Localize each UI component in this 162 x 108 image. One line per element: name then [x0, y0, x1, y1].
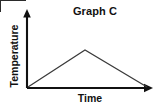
y-axis-label: Temperature [7, 20, 21, 92]
x-axis-arrowhead [144, 84, 153, 92]
x-axis-label: Time [45, 92, 135, 104]
page-title: Graph C [58, 5, 132, 18]
graph-c-figure: Graph C Temperature Time [0, 0, 162, 108]
temperature-data-line [28, 50, 147, 87]
y-axis-arrowhead [23, 9, 31, 18]
y-axis-label-container: Temperature [7, 20, 21, 92]
